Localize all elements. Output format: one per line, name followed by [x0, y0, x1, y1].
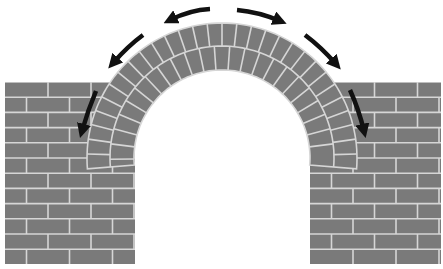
top-right-arrow	[237, 10, 280, 21]
top-left-arrow	[170, 9, 210, 20]
arch-diagram	[0, 0, 443, 269]
